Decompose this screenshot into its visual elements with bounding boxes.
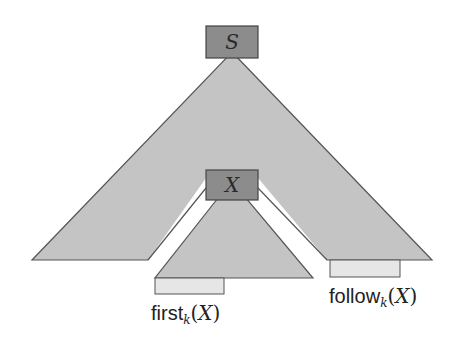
root-node-label: S bbox=[225, 30, 239, 54]
first-set-label: firstk(X) bbox=[151, 301, 220, 327]
follow-set-box bbox=[330, 260, 400, 277]
parse-tree-diagram: S X firstk(X) followk(X) bbox=[0, 0, 463, 348]
first-set-box bbox=[155, 278, 224, 294]
follow-set-label: followk(X) bbox=[329, 284, 417, 310]
inner-node-label: X bbox=[223, 173, 240, 197]
